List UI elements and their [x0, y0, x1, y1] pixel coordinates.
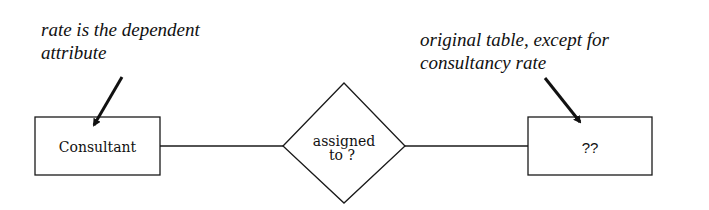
entity-unknown-label: ??	[582, 139, 599, 156]
relationship-label-line2: to ?	[329, 147, 355, 163]
arrow-right-icon	[545, 78, 580, 122]
entity-consultant-label: Consultant	[59, 139, 137, 155]
entity-unknown[interactable]: ??	[528, 117, 652, 175]
entity-consultant[interactable]: Consultant	[35, 117, 160, 175]
relationship-assigned-to[interactable]: assigned to ?	[283, 83, 405, 203]
er-diagram: Consultant assigned to ? ??	[0, 0, 709, 210]
